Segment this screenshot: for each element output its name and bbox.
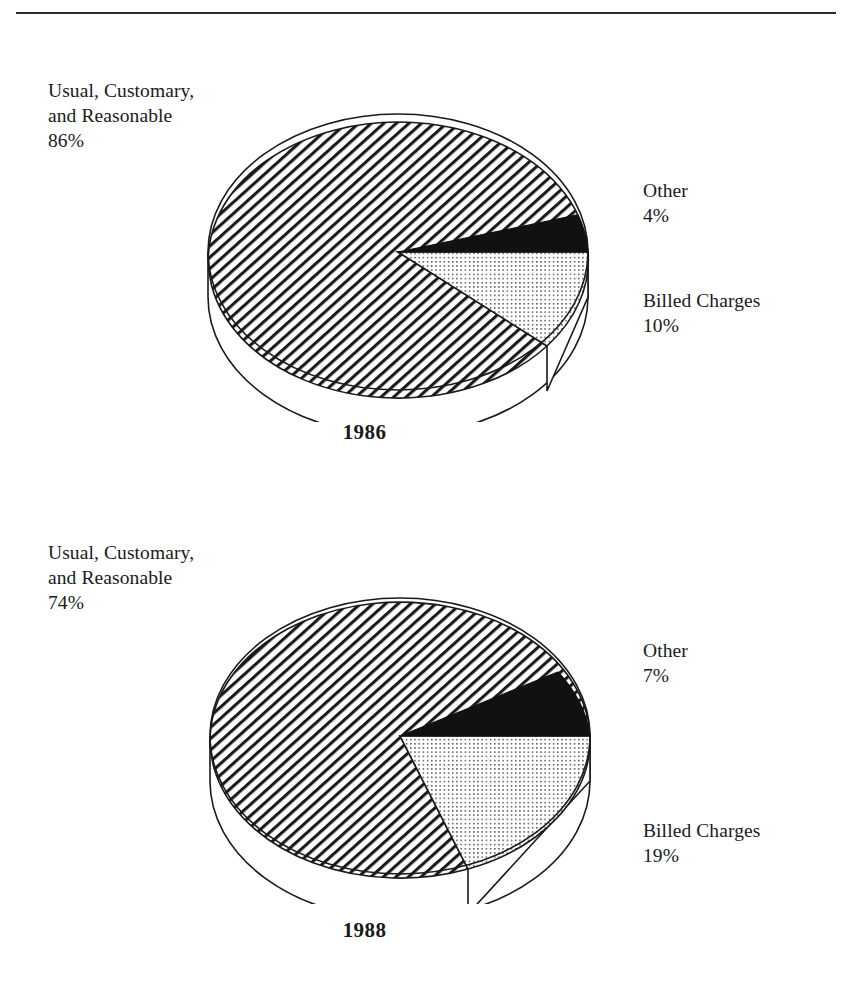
label-usual-customary-reasonable: Usual, Customary, and Reasonable 86%	[48, 78, 194, 153]
page-canvas: Usual, Customary, and Reasonable 86% Oth…	[0, 0, 849, 997]
ucr-name-line1: Usual, Customary,	[48, 542, 194, 563]
year-caption-1988: 1988	[0, 918, 789, 943]
label-other: Other 7%	[643, 638, 688, 688]
ucr-name-line1: Usual, Customary,	[48, 80, 194, 101]
year-caption-1986: 1986	[0, 420, 789, 445]
label-billed-charges: Billed Charges 19%	[643, 818, 761, 868]
billed-percent: 19%	[643, 843, 761, 868]
other-name: Other	[643, 640, 688, 661]
billed-percent: 10%	[643, 313, 761, 338]
ucr-percent: 74%	[48, 590, 194, 615]
other-percent: 4%	[643, 203, 688, 228]
billed-name: Billed Charges	[643, 290, 761, 311]
figure-1986: Usual, Customary, and Reasonable 86% Oth…	[0, 30, 849, 470]
pie-chart-1988	[200, 554, 620, 904]
other-name: Other	[643, 180, 688, 201]
ucr-percent: 86%	[48, 128, 194, 153]
ucr-name-line2: and Reasonable	[48, 105, 172, 126]
label-other: Other 4%	[643, 178, 688, 228]
ucr-name-line2: and Reasonable	[48, 567, 172, 588]
label-usual-customary-reasonable: Usual, Customary, and Reasonable 74%	[48, 540, 194, 615]
billed-name: Billed Charges	[643, 820, 761, 841]
pie-chart-1986	[200, 72, 620, 422]
figure-1988: Usual, Customary, and Reasonable 74% Oth…	[0, 520, 849, 980]
other-percent: 7%	[643, 663, 688, 688]
label-billed-charges: Billed Charges 10%	[643, 288, 761, 338]
header-rule	[16, 12, 836, 14]
